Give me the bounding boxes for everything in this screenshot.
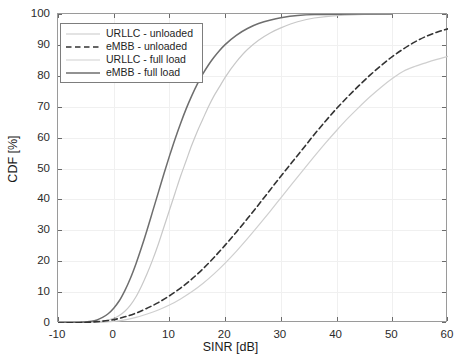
x-tick-label: 0 — [110, 328, 116, 340]
x-tick-label: -10 — [49, 328, 66, 340]
legend-label: URLLC - full load — [106, 53, 186, 66]
legend-line-sample — [65, 28, 101, 40]
legend-label: eMBB - full load — [106, 66, 180, 79]
chart-figure: -100102030405060 0102030405060708090100 … — [0, 0, 461, 362]
legend-item: URLLC - unloaded — [65, 27, 198, 40]
x-tick-label: 10 — [162, 328, 175, 340]
legend-line-sample — [65, 54, 101, 66]
y-tick-label: 90 — [8, 38, 50, 50]
x-tick-label: 60 — [441, 328, 454, 340]
series-line — [58, 56, 448, 323]
chart-legend: URLLC - unloadedeMBB - unloadedURLLC - f… — [60, 23, 203, 83]
legend-item: URLLC - full load — [65, 53, 198, 66]
legend-line-sample — [65, 67, 101, 79]
x-axis-title: SINR [dB] — [0, 340, 461, 354]
y-axis-title: CDF [%] — [6, 104, 20, 214]
legend-label: eMBB - unloaded — [106, 40, 187, 53]
y-tick-label: 30 — [8, 223, 50, 235]
y-tick-label: 100 — [8, 7, 50, 19]
x-tick-label: 30 — [273, 328, 286, 340]
y-tick-label: 10 — [8, 285, 50, 297]
x-tick-label: 50 — [385, 328, 398, 340]
legend-item: eMBB - unloaded — [65, 40, 198, 53]
y-tick-label: 80 — [8, 69, 50, 81]
legend-item: eMBB - full load — [65, 66, 198, 79]
y-tick-label: 20 — [8, 254, 50, 266]
legend-label: URLLC - unloaded — [106, 27, 193, 40]
y-tick-label: 0 — [8, 316, 50, 328]
x-tick-label: 40 — [329, 328, 342, 340]
x-tick-label: 20 — [218, 328, 231, 340]
legend-line-sample — [65, 41, 101, 53]
